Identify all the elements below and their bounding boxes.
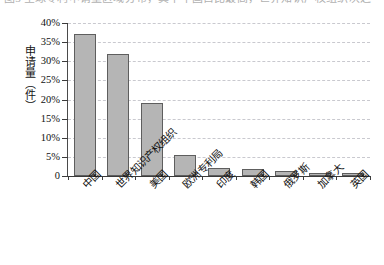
- y-axis-tick-label: 40%: [20, 18, 60, 29]
- bar: [107, 54, 129, 176]
- gridline: [68, 23, 370, 24]
- gridline: [68, 42, 370, 43]
- y-axis-tick-label: 15%: [20, 114, 60, 125]
- figure-caption-strip: 图3 全球专利申请量区域分布，其中中国占比最高，世界知识产权组织次之: [0, 0, 384, 11]
- figure-caption-text: 图3 全球专利申请量区域分布，其中中国占比最高，世界知识产权组织次之: [4, 0, 371, 4]
- y-axis-tick-label: 35%: [20, 37, 60, 48]
- y-axis-tick-label: 25%: [20, 75, 60, 86]
- bar-chart: 申请量（件） 05%10%15%20%25%30%35%40% 中国世界知识产权…: [0, 11, 384, 265]
- y-axis-tick-label: 5%: [20, 152, 60, 163]
- x-axis-tick: [68, 176, 69, 180]
- bar: [74, 34, 96, 176]
- y-axis-tick-label: 0: [20, 171, 60, 182]
- y-axis-tick-label: 10%: [20, 133, 60, 144]
- y-axis-tick-label: 30%: [20, 56, 60, 67]
- y-axis-tick-label: 20%: [20, 95, 60, 106]
